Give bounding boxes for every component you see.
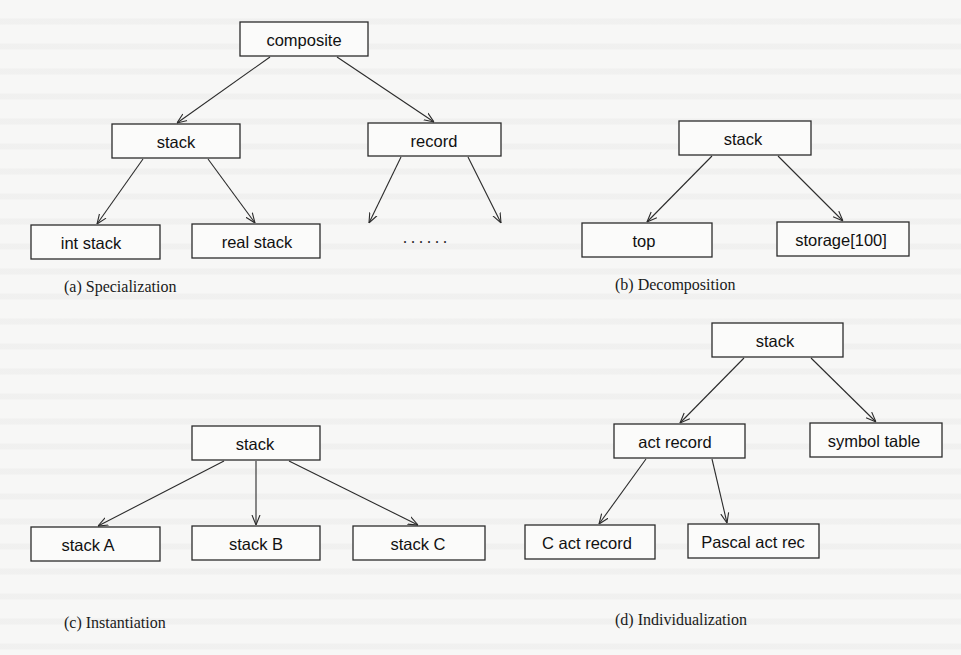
node-label: stack — [724, 130, 763, 148]
node-label: stack — [236, 435, 275, 453]
caption-decomposition: (b) Decomposition — [615, 276, 735, 294]
node-label: C act record — [542, 534, 632, 552]
node-composite: composite — [240, 22, 368, 56]
node-label: int stack — [61, 234, 122, 252]
node-label: stack — [157, 133, 196, 151]
edge-stack-int-stack — [97, 159, 143, 224]
node-label: stack — [756, 332, 795, 350]
node-stack: stack — [112, 124, 240, 158]
node-label: stack A — [61, 536, 114, 554]
panel-instantiation: stack stack A stack B stack C (c) Instan… — [31, 426, 485, 632]
node-label: storage[100] — [795, 231, 887, 249]
edge-stack-stack-c — [289, 461, 418, 525]
edge-record-right — [468, 157, 501, 223]
node-int-stack: int stack — [31, 225, 160, 259]
ellipsis: ...... — [403, 229, 451, 246]
edge-stack-stack-a — [98, 461, 224, 526]
edge-composite-record — [337, 57, 434, 122]
edge-stack-act-record — [680, 358, 744, 423]
edge-composite-stack — [177, 57, 270, 123]
node-label: Pascal act rec — [701, 533, 805, 551]
node-storage: storage[100] — [777, 222, 909, 256]
caption-individualization: (d) Individualization — [615, 611, 747, 629]
node-top: top — [582, 223, 712, 257]
edge-stack-storage — [778, 156, 843, 221]
panel-individualization: stack act record symbol table C act reco… — [525, 323, 942, 629]
node-label: record — [411, 132, 458, 150]
node-label: top — [633, 232, 656, 250]
edge-act-record-pascal-act-rec — [712, 459, 727, 523]
node-label: stack B — [229, 535, 283, 553]
node-stack-c: stack C — [353, 526, 485, 560]
node-symbol-table: symbol table — [810, 423, 942, 457]
panel-specialization: composite stack record int stack real st… — [31, 22, 501, 296]
node-label: stack C — [390, 535, 445, 553]
edge-stack-symbol-table — [811, 358, 876, 422]
node-label: symbol table — [828, 432, 921, 450]
node-c-act-record: C act record — [525, 525, 655, 559]
node-label: act record — [638, 433, 711, 451]
edge-stack-top — [647, 156, 712, 222]
node-stack-b: stack B — [192, 526, 320, 560]
node-stack: stack — [192, 426, 320, 460]
caption-specialization: (a) Specialization — [64, 278, 176, 296]
panel-decomposition: stack top storage[100] (b) Decomposition — [582, 121, 909, 294]
caption-instantiation: (c) Instantiation — [64, 614, 166, 632]
node-label: real stack — [222, 233, 293, 251]
node-stack: stack — [712, 323, 843, 357]
node-record: record — [368, 123, 501, 156]
diagram-canvas: composite stack record int stack real st… — [0, 0, 961, 655]
node-stack: stack — [679, 121, 811, 155]
edge-act-record-c-act-record — [599, 459, 646, 524]
node-real-stack: real stack — [192, 224, 320, 258]
node-pascal-act-rec: Pascal act rec — [688, 524, 819, 558]
node-label: composite — [266, 31, 341, 49]
node-stack-a: stack A — [31, 527, 160, 561]
node-act-record: act record — [614, 424, 745, 458]
edge-record-left — [369, 157, 401, 223]
edge-stack-real-stack — [208, 159, 255, 223]
